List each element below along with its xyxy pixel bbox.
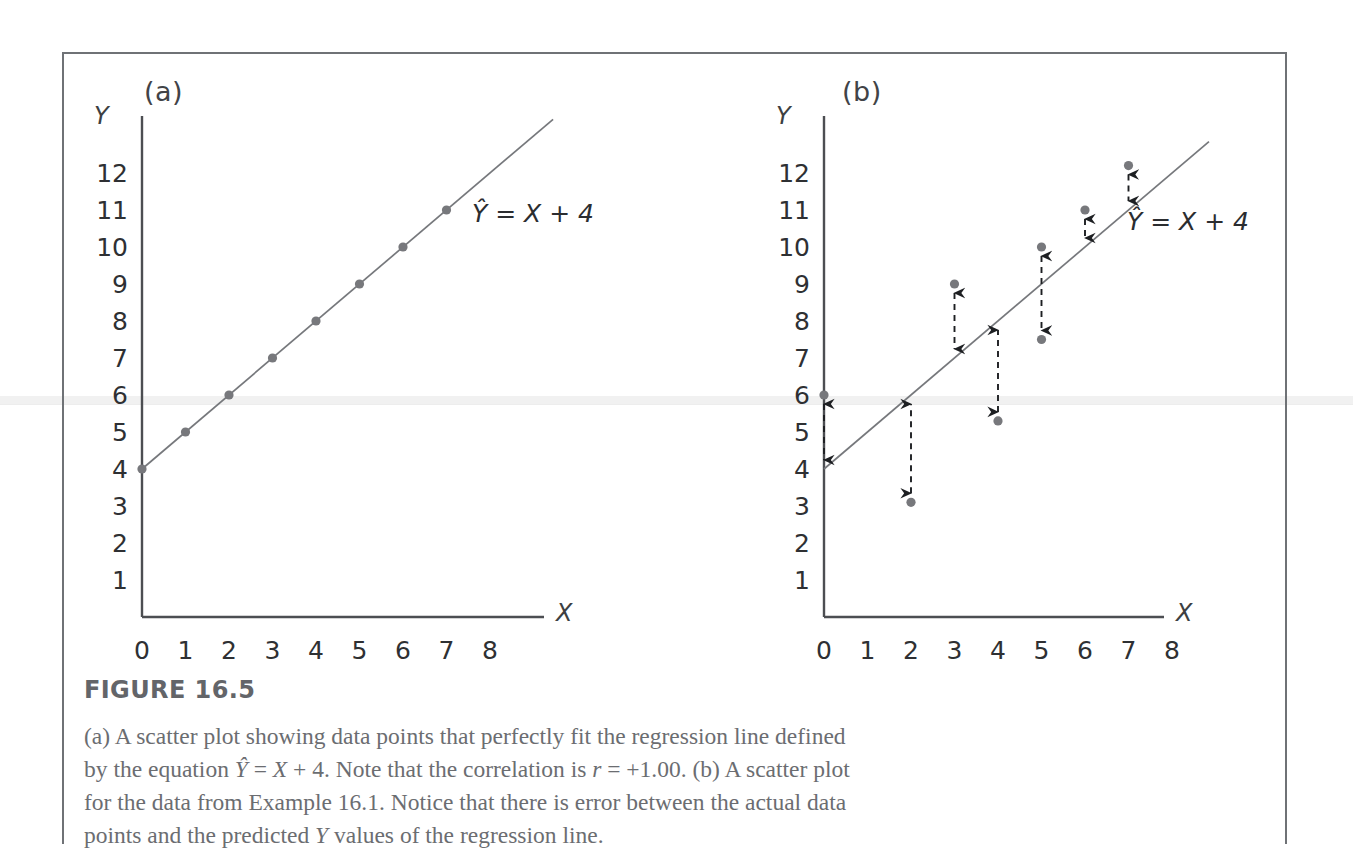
y-tick-label: 7 xyxy=(112,344,128,373)
y-tick-label: 1 xyxy=(794,566,810,595)
data-point xyxy=(268,353,277,362)
y-tick-label: 2 xyxy=(112,529,128,558)
x-tick-label: 0 xyxy=(816,636,832,665)
data-point xyxy=(950,279,959,288)
figure-heading: FIGURE 16.5 xyxy=(84,676,1264,704)
x-tick-label: 8 xyxy=(482,636,498,665)
y-tick-label: 6 xyxy=(794,381,810,410)
y-tick-label: 3 xyxy=(794,492,810,521)
data-point xyxy=(137,464,146,473)
regression-equation-label: Ŷ = X + 4 xyxy=(472,198,594,228)
x-tick-label: 7 xyxy=(439,636,455,665)
regression-line xyxy=(142,119,553,469)
y-tick-label: 5 xyxy=(112,418,128,447)
data-point xyxy=(1080,205,1089,214)
data-point xyxy=(993,416,1002,425)
data-point xyxy=(181,427,190,436)
y-tick-label: 4 xyxy=(112,455,128,484)
y-tick-label: 10 xyxy=(778,233,810,262)
data-point xyxy=(1037,335,1046,344)
data-point xyxy=(906,498,915,507)
figure-caption: (a) A scatter plot showing data points t… xyxy=(84,720,874,852)
data-point xyxy=(311,316,320,325)
data-point xyxy=(1037,242,1046,251)
x-tick-label: 3 xyxy=(947,636,963,665)
regression-line xyxy=(824,142,1209,469)
data-point xyxy=(224,390,233,399)
y-tick-label: 8 xyxy=(112,307,128,336)
data-point xyxy=(442,205,451,214)
y-axis-name: Y xyxy=(94,102,111,130)
y-tick-label: 12 xyxy=(96,159,128,188)
y-tick-label: 9 xyxy=(112,270,128,299)
panel-b: (b) YX123456789101112012345678Ŷ = X + 4 xyxy=(724,54,1284,674)
x-tick-label: 1 xyxy=(860,636,876,665)
x-tick-label: 8 xyxy=(1164,636,1180,665)
y-tick-label: 7 xyxy=(794,344,810,373)
y-tick-label: 12 xyxy=(778,159,810,188)
y-axis-name: Y xyxy=(776,102,793,130)
scatter-plot-a: YX123456789101112012345678Ŷ = X + 4 xyxy=(64,54,724,674)
y-tick-label: 1 xyxy=(112,566,128,595)
x-axis-name: X xyxy=(1174,599,1193,627)
data-point xyxy=(819,390,828,399)
y-tick-label: 11 xyxy=(96,196,128,225)
scatter-plot-b: YX123456789101112012345678Ŷ = X + 4 xyxy=(724,54,1284,674)
x-tick-label: 4 xyxy=(990,636,1006,665)
data-point xyxy=(1124,161,1133,170)
x-tick-label: 1 xyxy=(178,636,194,665)
y-tick-label: 9 xyxy=(794,270,810,299)
y-tick-label: 5 xyxy=(794,418,810,447)
y-tick-label: 6 xyxy=(112,381,128,410)
x-tick-label: 6 xyxy=(395,636,411,665)
regression-equation-label: Ŷ = X + 4 xyxy=(1127,206,1249,236)
y-tick-label: 8 xyxy=(794,307,810,336)
x-axis-name: X xyxy=(554,599,573,627)
data-point xyxy=(355,279,364,288)
x-tick-label: 5 xyxy=(1034,636,1050,665)
x-tick-label: 4 xyxy=(308,636,324,665)
x-tick-label: 3 xyxy=(265,636,281,665)
x-tick-label: 6 xyxy=(1077,636,1093,665)
x-tick-label: 7 xyxy=(1121,636,1137,665)
x-tick-label: 5 xyxy=(352,636,368,665)
y-tick-label: 10 xyxy=(96,233,128,262)
y-tick-label: 11 xyxy=(778,196,810,225)
y-tick-label: 4 xyxy=(794,455,810,484)
panel-a: (a) YX123456789101112012345678Ŷ = X + 4 xyxy=(64,54,724,674)
figure-frame: (a) YX123456789101112012345678Ŷ = X + 4 … xyxy=(62,52,1287,844)
caption-block: FIGURE 16.5 (a) A scatter plot showing d… xyxy=(84,676,1264,852)
x-tick-label: 2 xyxy=(903,636,919,665)
x-tick-label: 0 xyxy=(134,636,150,665)
y-tick-label: 2 xyxy=(794,529,810,558)
y-tick-label: 3 xyxy=(112,492,128,521)
data-point xyxy=(398,242,407,251)
x-tick-label: 2 xyxy=(221,636,237,665)
